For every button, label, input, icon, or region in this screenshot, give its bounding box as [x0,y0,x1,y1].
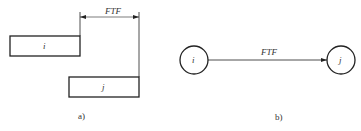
ftf-arrow-label: FTF [260,47,278,57]
caption-a: a) [78,111,85,121]
diagram-canvas: i j FTF a) i j FTF b) [0,0,361,131]
panel-b: i j FTF b) [180,46,355,122]
ftf-dimension-label: FTF [104,6,122,16]
panel-a: i j FTF a) [10,6,139,121]
node-i-label: i [192,55,195,65]
activity-i-label: i [43,41,46,51]
caption-b: b) [275,112,283,122]
node-j-label: j [338,55,342,65]
activity-j-label: j [101,82,105,92]
